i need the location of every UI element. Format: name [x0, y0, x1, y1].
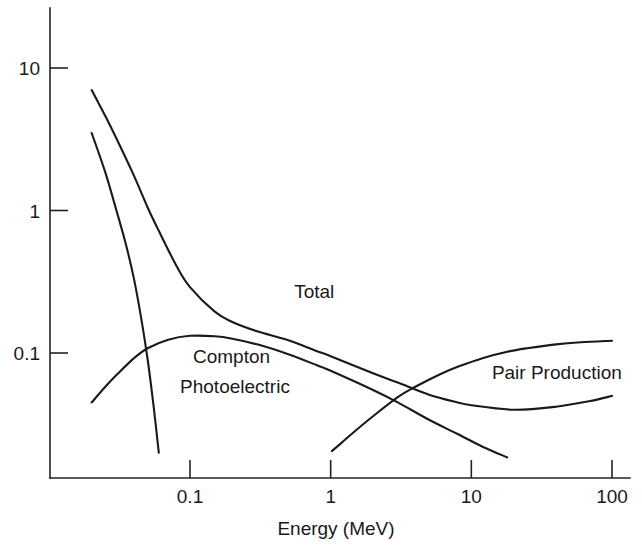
series-label-compton: Compton: [193, 346, 270, 367]
curve-pair-production: [332, 341, 612, 451]
series-label-photoelectric: Photoelectric: [180, 376, 290, 397]
x-tick-label-100: 100: [596, 486, 628, 507]
curve-compton: [92, 336, 508, 458]
tick-marks: [50, 68, 612, 478]
x-tick-label-1: 1: [325, 486, 336, 507]
series-labels: TotalPhotoelectricComptonPair Production: [180, 281, 622, 397]
x-tick-label-10: 10: [461, 486, 482, 507]
y-tick-label-0.1: 0.1: [14, 343, 40, 364]
y-tick-label-1: 1: [29, 201, 40, 222]
curve-photoelectric: [92, 133, 159, 453]
y-tick-label-10: 10: [19, 58, 40, 79]
x-axis-title: Energy (MeV): [277, 518, 394, 539]
data-curves: [92, 90, 612, 457]
series-label-total: Total: [294, 281, 334, 302]
attenuation-coefficient-figure: 1010.10.1110100 TotalPhotoelectricCompto…: [0, 0, 642, 560]
series-label-pair-production: Pair Production: [492, 362, 622, 383]
x-tick-label-0.1: 0.1: [177, 486, 203, 507]
plot-area: 1010.10.1110100 TotalPhotoelectricCompto…: [0, 0, 642, 560]
